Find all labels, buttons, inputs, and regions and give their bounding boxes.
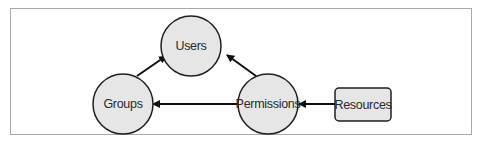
node-resources: Resources	[334, 88, 391, 121]
groups-label: Groups	[103, 97, 142, 111]
edge-groups-to-users	[137, 56, 166, 76]
node-users: Users	[161, 16, 221, 76]
users-label: Users	[175, 39, 206, 53]
node-permissions: Permissions	[236, 74, 301, 134]
node-groups: Groups	[93, 74, 153, 134]
permissions-label: Permissions	[236, 97, 301, 111]
diagram-canvas: Users Groups Permissions Resources	[0, 0, 483, 146]
edge-permissions-to-users	[227, 55, 256, 76]
resources-label: Resources	[334, 98, 391, 112]
